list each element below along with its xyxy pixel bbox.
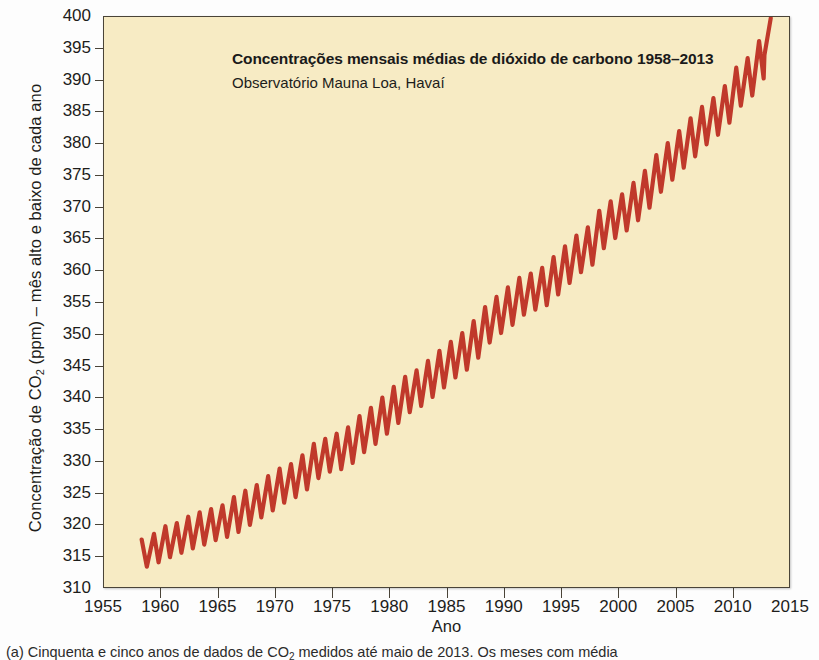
y-tick-label-375: 375	[41, 166, 91, 183]
x-tick-label-1960: 1960	[130, 598, 190, 615]
y-tick-label-380: 380	[41, 134, 91, 151]
chart-subtitle: Observatório Mauna Loa, Havaí	[232, 74, 445, 91]
co2-series-line	[142, 18, 771, 566]
y-tick-label-340: 340	[41, 388, 91, 405]
plot-area: Concentrações mensais médias de dióxido …	[103, 16, 790, 588]
figure-caption-prefix: (a) Cinquenta e cinco anos de dados de C…	[6, 644, 289, 660]
y-tick-label-315: 315	[41, 547, 91, 564]
co2-figure: Concentração de CO2 (ppm) – mês alto e b…	[0, 0, 819, 660]
y-tick-label-360: 360	[41, 261, 91, 278]
y-tick-label-390: 390	[41, 71, 91, 88]
y-tick-label-335: 335	[41, 420, 91, 437]
x-tick-label-2010: 2010	[703, 598, 763, 615]
x-tick-label-2015: 2015	[760, 598, 819, 615]
y-tick-label-345: 345	[41, 357, 91, 374]
y-tick-label-395: 395	[41, 39, 91, 56]
figure-caption-suffix: medidos até maio de 2013. Os meses com m…	[295, 644, 618, 660]
y-tick-label-400: 400	[41, 7, 91, 24]
x-tick-label-1980: 1980	[359, 598, 419, 615]
figure-caption: (a) Cinquenta e cinco anos de dados de C…	[6, 644, 814, 660]
x-tick-label-1990: 1990	[474, 598, 534, 615]
y-tick-label-325: 325	[41, 484, 91, 501]
y-tick-label-355: 355	[41, 293, 91, 310]
x-tick-label-2000: 2000	[588, 598, 648, 615]
x-axis-title: Ano	[103, 617, 790, 636]
x-tick-label-1975: 1975	[302, 598, 362, 615]
y-tick-label-385: 385	[41, 102, 91, 119]
y-tick-label-365: 365	[41, 229, 91, 246]
x-tick-label-2005: 2005	[646, 598, 706, 615]
figure-caption-subscript: 2	[289, 651, 295, 660]
y-tick-label-350: 350	[41, 325, 91, 342]
y-tick-label-310: 310	[41, 579, 91, 596]
y-tick-label-330: 330	[41, 452, 91, 469]
y-tick-label-370: 370	[41, 198, 91, 215]
x-tick-label-1995: 1995	[531, 598, 591, 615]
x-tick-label-1965: 1965	[188, 598, 248, 615]
x-tick-label-1985: 1985	[417, 598, 477, 615]
co2-line-chart	[104, 17, 789, 587]
x-tick-label-1955: 1955	[73, 598, 133, 615]
chart-title: Concentrações mensais médias de dióxido …	[232, 50, 714, 68]
y-tick-label-320: 320	[41, 515, 91, 532]
x-tick-label-1970: 1970	[245, 598, 305, 615]
